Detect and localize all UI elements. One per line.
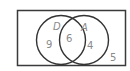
outside-count: 5	[110, 52, 116, 63]
a-only-count: 4	[87, 40, 93, 51]
set-d-circle	[37, 16, 86, 65]
set-a-label: A	[80, 22, 88, 33]
d-only-count: 9	[46, 39, 52, 50]
venn-diagram: D A 9 6 4 5	[0, 0, 130, 71]
intersection-count: 6	[66, 33, 72, 44]
set-d-label: D	[53, 21, 61, 32]
